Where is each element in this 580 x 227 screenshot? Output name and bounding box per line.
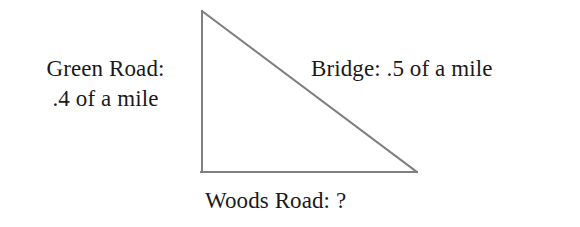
bridge-hypotenuse-line (202, 11, 417, 172)
diagram-canvas: Green Road: .4 of a mile Bridge: .5 of a… (0, 0, 580, 227)
woods-road-label: Woods Road: ? (205, 186, 346, 216)
green-road-label-line1: Green Road: (18, 54, 193, 84)
green-road-label: Green Road: .4 of a mile (18, 54, 193, 114)
green-road-label-line2: .4 of a mile (18, 84, 193, 114)
bridge-label: Bridge: .5 of a mile (311, 54, 493, 84)
